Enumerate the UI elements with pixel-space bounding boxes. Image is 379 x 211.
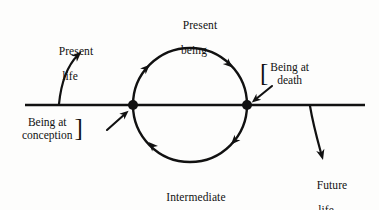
diagram-canvas: Present being Present life Intermediate … [0, 0, 379, 210]
label-present-being-line1: Present [183, 19, 218, 31]
death-point-dot [242, 100, 252, 110]
closing-bracket-icon: ] [74, 115, 82, 140]
label-future-life: Future life [300, 166, 352, 210]
label-being-at-conception-line2: conception [22, 129, 72, 141]
label-being-at-conception-line1: Being at [28, 116, 67, 128]
label-present-being: Present being [162, 6, 226, 81]
future-life-curved-arrow [310, 106, 327, 161]
opening-bracket-icon: [ [260, 60, 268, 85]
label-future-life-line2: life [300, 204, 352, 211]
label-future-life-line1: Future [317, 179, 348, 191]
label-intermediate-being: Intermediate being [143, 178, 237, 210]
conception-point-dot [128, 100, 138, 110]
conception-pointer-arrow [107, 108, 131, 130]
label-being-at-death-line2: death [277, 74, 302, 86]
label-being-at-death-text: Being atdeath [270, 61, 309, 86]
label-present-life: Present life [40, 32, 100, 107]
label-being-at-conception-text: Being atconception [22, 116, 72, 141]
label-present-life-line2: life [40, 70, 100, 83]
death-pointer-arrow [249, 86, 272, 105]
label-being-at-death: [ Being atdeath [260, 61, 309, 86]
label-being-at-death-line1: Being at [270, 61, 309, 73]
label-present-being-line2: being [162, 44, 226, 57]
label-present-life-line1: Present [59, 45, 94, 57]
label-intermediate-being-line1: Intermediate [166, 191, 225, 203]
label-being-at-conception: Being atconception ] [22, 116, 83, 141]
